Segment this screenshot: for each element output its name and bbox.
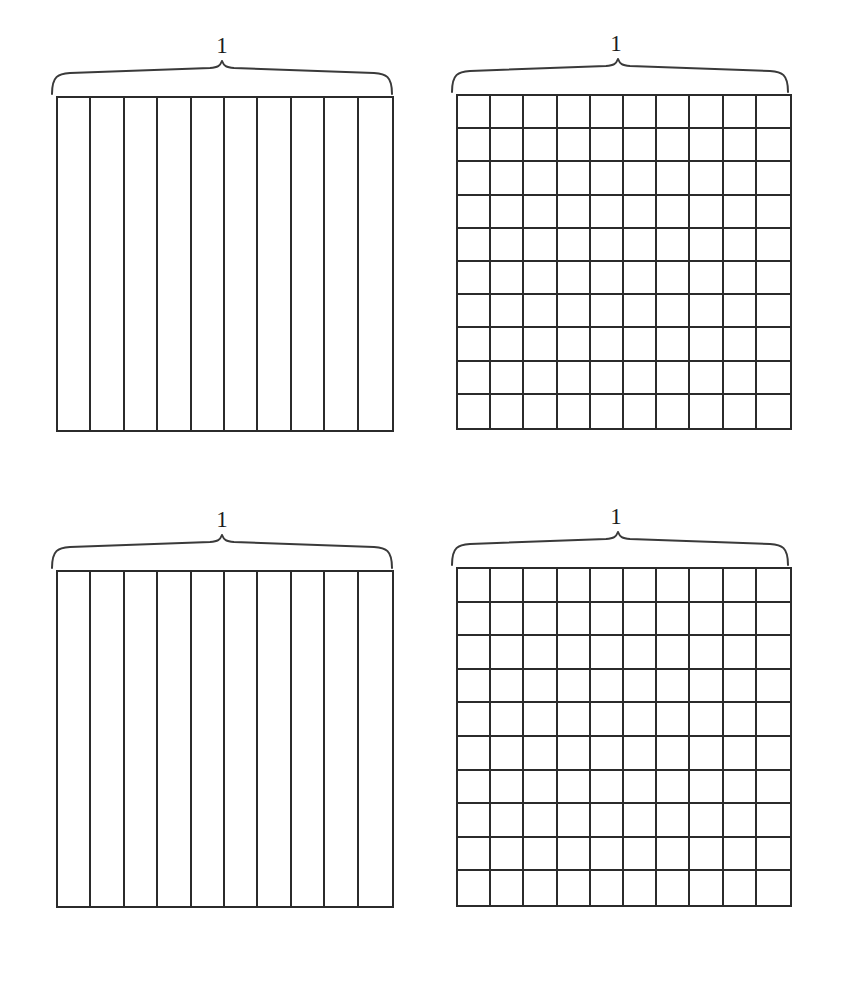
hundredth-cell	[591, 771, 624, 805]
hundredth-cell	[724, 196, 757, 229]
hundredth-cell	[690, 295, 723, 328]
hundredth-cell	[624, 229, 657, 262]
hundredth-cell	[757, 838, 790, 872]
brace-bottom-left	[48, 534, 396, 570]
hundredth-cell	[757, 569, 790, 603]
hundredth-cell	[591, 229, 624, 262]
hundredth-cell	[524, 737, 557, 771]
hundredth-cell	[458, 229, 491, 262]
tenth-cell	[258, 572, 291, 906]
hundredth-cell	[524, 703, 557, 737]
hundredth-cell	[724, 703, 757, 737]
figure-top-right: 1	[448, 32, 796, 442]
hundredth-cell	[690, 871, 723, 905]
hundredth-cell	[690, 196, 723, 229]
tenth-cell	[58, 572, 91, 906]
hundredth-cell	[524, 229, 557, 262]
hundredth-cell	[624, 636, 657, 670]
hundredth-cell	[690, 703, 723, 737]
hundredth-cell	[458, 636, 491, 670]
hundredth-cell	[458, 295, 491, 328]
hundredth-cell	[591, 737, 624, 771]
hundredth-cell	[458, 395, 491, 428]
hundredth-cell	[558, 196, 591, 229]
hundredth-cell	[724, 129, 757, 162]
hundredth-cell	[757, 162, 790, 195]
hundredth-cell	[558, 295, 591, 328]
hundredth-cell	[591, 96, 624, 129]
hundredth-cell	[591, 362, 624, 395]
hundredth-cell	[458, 603, 491, 637]
hundredth-cell	[624, 603, 657, 637]
hundredth-cell	[724, 328, 757, 361]
tenth-cell	[359, 572, 392, 906]
hundredth-cell	[491, 703, 524, 737]
hundredth-cell	[757, 871, 790, 905]
unit-label-bottom-right: 1	[448, 505, 784, 528]
hundredth-cell	[458, 362, 491, 395]
hundredth-cell	[458, 96, 491, 129]
unit-label-top-left: 1	[48, 34, 396, 57]
hundredth-cell	[524, 96, 557, 129]
hundredth-cell	[524, 771, 557, 805]
hundredth-cell	[591, 328, 624, 361]
tenth-cell	[292, 572, 325, 906]
hundredth-cell	[491, 262, 524, 295]
hundredth-cell	[624, 838, 657, 872]
hundredth-cell	[458, 569, 491, 603]
hundredth-cell	[558, 670, 591, 704]
hundredth-cell	[458, 129, 491, 162]
unit-square-tenths-bottom-left	[56, 570, 394, 908]
hundredth-cell	[657, 737, 690, 771]
hundredth-cell	[524, 129, 557, 162]
figure-page: 1 1	[0, 0, 842, 990]
hundredth-cell	[657, 838, 690, 872]
hundredth-cell	[757, 328, 790, 361]
hundredth-cell	[690, 96, 723, 129]
hundredth-cell	[757, 395, 790, 428]
tenth-cell	[292, 98, 325, 430]
tenth-cell	[192, 98, 225, 430]
hundredth-cell	[690, 362, 723, 395]
figure-top-left: 1	[48, 34, 396, 444]
hundredth-cell	[458, 196, 491, 229]
hundredth-cell	[624, 162, 657, 195]
hundredth-cell	[757, 636, 790, 670]
hundredth-cell	[591, 162, 624, 195]
unit-label-top-right: 1	[448, 32, 784, 55]
tenth-cell	[325, 98, 358, 430]
hundredth-cell	[458, 737, 491, 771]
hundredth-cell	[657, 362, 690, 395]
hundredth-cell	[624, 871, 657, 905]
tenth-cell	[359, 98, 392, 430]
hundredth-cell	[657, 162, 690, 195]
hundredth-cell	[624, 328, 657, 361]
hundredth-cell	[657, 670, 690, 704]
unit-square-hundredths-bottom-right	[456, 567, 792, 907]
hundredth-cell	[757, 670, 790, 704]
hundredth-cell	[491, 804, 524, 838]
hundredth-cell	[591, 569, 624, 603]
figure-bottom-left-inner: 1	[48, 508, 396, 918]
figure-bottom-right: 1	[448, 505, 796, 915]
hundredth-cell	[657, 96, 690, 129]
hundredth-cell	[690, 771, 723, 805]
hundredth-cell	[690, 737, 723, 771]
hundredth-cell	[657, 771, 690, 805]
hundredth-cell	[491, 362, 524, 395]
hundredth-cell	[491, 603, 524, 637]
figure-bottom-right-inner: 1	[448, 505, 796, 915]
hundredth-cell	[458, 162, 491, 195]
hundredth-cell	[724, 771, 757, 805]
tenth-cell	[192, 572, 225, 906]
hundredth-cell	[624, 129, 657, 162]
hundredth-cell	[524, 162, 557, 195]
unit-label-bottom-left: 1	[48, 508, 396, 531]
hundredth-cell	[458, 771, 491, 805]
hundredth-cell	[591, 196, 624, 229]
hundredth-cell	[757, 196, 790, 229]
hundredth-cell	[657, 395, 690, 428]
hundredth-cell	[657, 295, 690, 328]
hundredth-cell	[558, 603, 591, 637]
hundredth-cell	[524, 569, 557, 603]
